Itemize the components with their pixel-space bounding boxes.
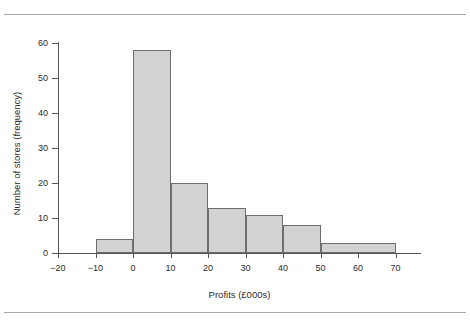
x-tick [321,253,322,258]
y-tick [52,183,58,184]
x-tick-label: 60 [343,263,373,273]
x-tick-label: −20 [43,263,73,273]
y-tick [52,113,58,114]
x-tick [208,253,209,258]
x-tick-label: 70 [381,263,411,273]
x-tick-label: 20 [193,263,223,273]
x-tick-label: −10 [81,263,111,273]
x-tick [96,253,97,258]
y-tick-label: 0 [26,248,48,258]
histogram-bar [96,239,134,253]
histogram-bar [208,208,246,254]
x-axis-line [58,253,421,254]
histogram-bar [321,243,396,254]
x-tick [396,253,397,258]
x-tick-label: 10 [156,263,186,273]
histogram-bar [133,50,171,253]
y-tick-label: 20 [26,178,48,188]
histogram-bar [171,183,209,253]
y-tick [52,78,58,79]
x-tick [246,253,247,258]
plot-area: 0102030405060 −20−10010203040506070 Numb… [0,0,470,326]
y-tick-label: 10 [26,213,48,223]
x-tick [171,253,172,258]
y-axis-line [58,42,59,254]
y-tick [52,148,58,149]
y-tick [52,218,58,219]
x-tick [58,253,59,258]
x-tick-label: 30 [231,263,261,273]
y-axis-title: Number of stores (frequency) [11,54,22,254]
x-axis-title: Profits (£000s) [58,289,421,300]
histogram-bar [283,225,321,253]
x-tick-label: 40 [268,263,298,273]
histogram-bar [246,215,284,254]
x-tick [283,253,284,258]
y-tick-label: 30 [26,143,48,153]
x-tick-label: 0 [118,263,148,273]
x-tick [133,253,134,258]
y-tick-label: 40 [26,108,48,118]
x-tick [358,253,359,258]
histogram-figure: 0102030405060 −20−10010203040506070 Numb… [0,0,470,326]
y-tick-label: 60 [26,38,48,48]
y-tick [52,43,58,44]
x-tick-label: 50 [306,263,336,273]
y-tick-label: 50 [26,73,48,83]
